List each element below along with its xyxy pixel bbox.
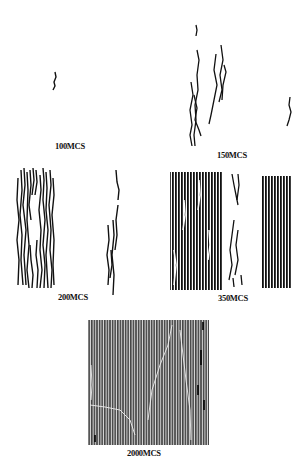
- snapshot-350mcs: [154, 160, 308, 310]
- panel-2000mcs: 2000MCS: [0, 310, 308, 469]
- panel-label: 350MCS: [218, 293, 248, 303]
- panel-150mcs: 150MCS: [0, 0, 308, 160]
- panel-label: 200MCS: [58, 292, 88, 302]
- snapshot-150mcs: [0, 0, 308, 160]
- panel-label: 150MCS: [217, 150, 247, 160]
- panel-350mcs: 350MCS: [154, 160, 308, 310]
- snapshot-2000mcs: [0, 310, 308, 469]
- panel-label: 2000MCS: [127, 448, 161, 458]
- snapshot-200mcs: [0, 160, 154, 310]
- panel-200mcs: 200MCS: [0, 160, 154, 310]
